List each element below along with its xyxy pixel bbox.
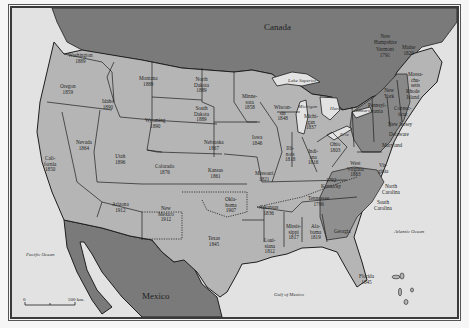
map-canvas <box>12 8 457 317</box>
map-frame: Canada Mexico Pacific Ocean Atlantic Oce… <box>10 6 459 319</box>
